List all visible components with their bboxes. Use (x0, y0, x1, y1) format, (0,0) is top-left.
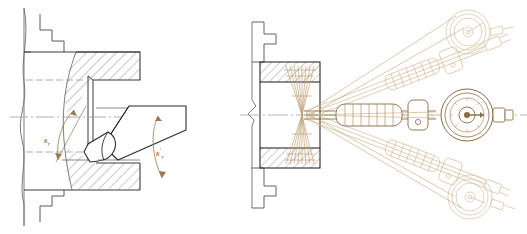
stepped-flange-top-right (252, 22, 276, 62)
angle-label-major-text: κr (44, 136, 50, 145)
stepped-flange-bottom (24, 190, 140, 222)
cutting-insert (84, 132, 115, 162)
stepped-flange-bottom-right (252, 168, 276, 208)
dial-indicator-lower-ghost (448, 175, 515, 219)
angle-label-minor-text: κ′r (156, 149, 164, 158)
right-view-figure (240, 0, 527, 234)
left-view-figure: κr κ′r (0, 0, 264, 234)
boring-bar-shank (103, 106, 186, 160)
bracket-clamp-center (408, 100, 428, 130)
stepped-flange-top (24, 14, 140, 52)
dial-indicator-upper-ghost (446, 10, 514, 54)
dial-indicator-center (441, 89, 513, 141)
drawing-sheet: κr κ′r (0, 0, 527, 234)
angle-label-minor: κ′r (156, 146, 164, 159)
angle-label-major: κr (44, 136, 50, 147)
